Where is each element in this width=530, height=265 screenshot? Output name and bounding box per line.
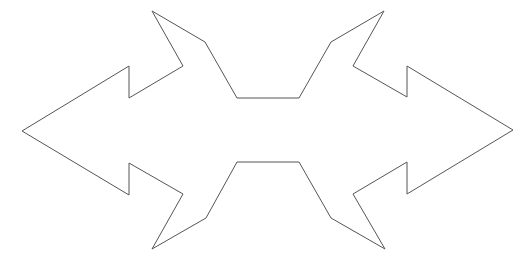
drawing-canvas xyxy=(0,0,530,265)
double-arrow-shape xyxy=(22,11,513,249)
